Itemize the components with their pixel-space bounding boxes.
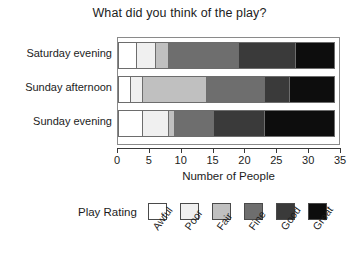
bar-segment-good <box>214 110 265 137</box>
x-tick <box>308 148 309 153</box>
bar-segment-awful <box>118 76 131 103</box>
x-tick-label: 10 <box>167 154 195 166</box>
legend-item-fair[interactable]: Fair <box>212 203 234 220</box>
x-tick-label: 5 <box>135 154 163 166</box>
x-tick-label: 30 <box>294 154 322 166</box>
x-axis-title: Number of People <box>117 170 340 182</box>
x-tick <box>181 148 182 153</box>
table-row <box>118 76 339 103</box>
legend-item-great[interactable]: Great <box>308 203 330 220</box>
legend: Play Rating AwfulPoorFairFineGoodGreat <box>78 203 359 271</box>
x-tick-label: 25 <box>262 154 290 166</box>
bar-segment-fair <box>156 42 169 69</box>
x-tick <box>276 148 277 153</box>
x-tick-label: 20 <box>230 154 258 166</box>
bar-segment-awful <box>118 42 137 69</box>
legend-item-awful[interactable]: Awful <box>148 203 170 220</box>
category-label-saturday-evening: Saturday evening <box>0 47 112 59</box>
stacked-bar-chart: What did you think of the play? Saturday… <box>0 0 359 271</box>
x-tick-label: 15 <box>199 154 227 166</box>
bar-segment-poor <box>131 76 144 103</box>
bar-segment-great <box>290 76 335 103</box>
bar-segment-fine <box>207 76 264 103</box>
table-row <box>118 110 339 137</box>
bar-segment-fine <box>169 42 239 69</box>
x-tick <box>244 148 245 153</box>
category-axis-labels: Saturday evening Sunday afternoon Sunday… <box>2 37 114 145</box>
bar-segment-fine <box>175 110 213 137</box>
category-label-sunday-afternoon: Sunday afternoon <box>0 81 112 93</box>
x-tick-label: 35 <box>326 154 354 166</box>
bar-segment-awful <box>118 110 143 137</box>
bar-segment-great <box>296 42 334 69</box>
plot-area <box>117 37 340 145</box>
chart-title: What did you think of the play? <box>0 6 359 20</box>
bar-segment-fair <box>143 76 207 103</box>
bar-segment-good <box>265 76 290 103</box>
bar-segment-good <box>239 42 296 69</box>
x-tick <box>340 148 341 153</box>
legend-item-good[interactable]: Good <box>276 203 298 220</box>
bar-segment-poor <box>143 110 168 137</box>
legend-item-fine[interactable]: Fine <box>244 203 266 220</box>
x-tick <box>117 148 118 153</box>
bar-segment-great <box>265 110 335 137</box>
x-axis-line <box>117 148 340 149</box>
bar-segment-poor <box>137 42 156 69</box>
x-tick-label: 0 <box>103 154 131 166</box>
legend-title: Play Rating <box>78 206 137 218</box>
x-tick <box>213 148 214 153</box>
legend-item-poor[interactable]: Poor <box>180 203 202 220</box>
table-row <box>118 42 339 69</box>
category-label-sunday-evening: Sunday evening <box>0 115 112 127</box>
x-tick <box>149 148 150 153</box>
